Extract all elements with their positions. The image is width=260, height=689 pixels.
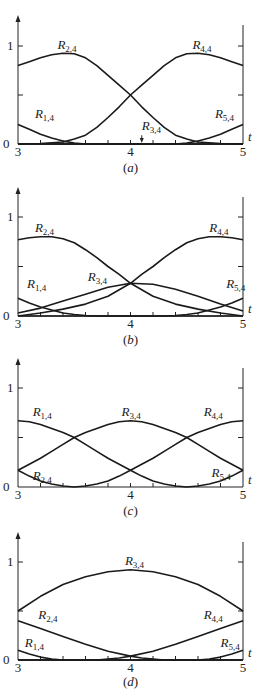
- series-label: R5,4: [211, 465, 232, 482]
- y-tick-label: 0: [3, 479, 10, 494]
- x-axis-label: t: [248, 472, 252, 487]
- series-label: R4,4: [203, 404, 224, 421]
- panel-caption: (c): [123, 503, 137, 518]
- y-axis-arrow-icon: [16, 532, 21, 539]
- x-axis-label: t: [248, 301, 252, 316]
- x-tick-label: 5: [240, 487, 247, 502]
- curve-3-4: [18, 570, 243, 611]
- y-axis-arrow-icon: [16, 358, 21, 365]
- series-label: R3,4: [124, 553, 145, 570]
- basis-function-figure: 01345tR1,4R2,4R3,4R4,4R5,4(a)01345tR1,4R…: [0, 0, 260, 689]
- x-tick-label: 5: [240, 316, 247, 331]
- series-label: R1,4: [34, 106, 55, 123]
- arrow-head-icon: [140, 138, 144, 143]
- x-tick-label: 4: [127, 144, 134, 159]
- panel-caption: (b): [123, 332, 138, 347]
- x-tick-label: 4: [127, 487, 134, 502]
- x-tick-label: 3: [15, 660, 22, 675]
- y-tick-label: 1: [7, 554, 14, 569]
- series-label: R2,4: [32, 468, 53, 485]
- curve-2-4: [18, 621, 243, 660]
- y-tick-label: 1: [7, 38, 14, 53]
- x-tick-label: 3: [15, 316, 22, 331]
- series-label: R4,4: [208, 220, 229, 237]
- series-label: R3,4: [121, 404, 142, 421]
- curve-4-4: [18, 53, 243, 144]
- x-axis-label: t: [248, 129, 252, 144]
- y-tick-label: 0: [3, 308, 10, 323]
- x-tick-label: 4: [127, 660, 134, 675]
- y-axis-arrow-icon: [16, 187, 21, 194]
- curve-2-4: [18, 53, 243, 144]
- series-label: R2,4: [34, 220, 55, 237]
- x-tick-label: 4: [127, 316, 134, 331]
- x-tick-label: 3: [15, 144, 22, 159]
- x-axis-label: t: [248, 645, 252, 660]
- panel-caption: (a): [123, 160, 138, 175]
- series-label: R5,4: [214, 106, 235, 123]
- chart-panel-d: 01345tR1,4R2,4R3,4R4,4R5,4(d): [3, 532, 252, 689]
- series-label: R2,4: [56, 37, 77, 54]
- x-tick-label: 5: [240, 660, 247, 675]
- series-label: R3,4: [87, 269, 108, 286]
- series-label: R1,4: [26, 276, 47, 293]
- y-tick-label: 0: [3, 652, 10, 667]
- series-label: R1,4: [32, 404, 53, 421]
- series-label: R5,4: [220, 635, 241, 652]
- x-tick-label: 3: [15, 487, 22, 502]
- series-label: R1,4: [24, 635, 45, 652]
- series-label: R4,4: [191, 37, 212, 54]
- series-label: R3,4: [141, 118, 162, 135]
- y-tick-label: 1: [7, 209, 14, 224]
- series-label: R2,4: [37, 607, 58, 624]
- chart-panel-a: 01345tR1,4R2,4R3,4R4,4R5,4(a): [3, 15, 252, 175]
- x-tick-label: 5: [240, 144, 247, 159]
- panel-caption: (d): [123, 674, 138, 689]
- chart-panel-b: 01345tR1,4R2,4R3,4R4,4R5,4(b): [3, 187, 252, 347]
- y-axis-arrow-icon: [16, 15, 21, 22]
- series-label: R4,4: [203, 607, 224, 624]
- y-tick-label: 1: [7, 380, 14, 395]
- curve-3-4: [18, 283, 243, 313]
- y-tick-label: 0: [3, 136, 10, 151]
- curve-4-4: [18, 621, 243, 660]
- chart-panel-c: 01345tR1,4R2,4R3,4R4,4R5,4(c): [3, 358, 252, 518]
